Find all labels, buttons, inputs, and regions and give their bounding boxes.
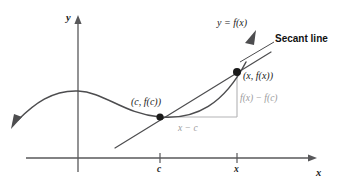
x-tick-label-x: x (233, 164, 239, 174)
callout-leader-group (240, 42, 274, 62)
y-axis-label: y (64, 12, 71, 23)
point-c-dot (156, 113, 163, 120)
function-curve-group (11, 30, 256, 129)
curve-equation-label: y = f(x) (216, 17, 248, 29)
difference-legs-group (160, 72, 237, 117)
curve-arrowhead-right (245, 30, 256, 45)
vertical-leg-label: f(x) − f(c) (240, 93, 278, 104)
horizontal-leg-label: x − c (177, 123, 198, 133)
x-axis-label: x (315, 167, 321, 178)
secant-line-figure: y x c x y = f(x) Secant line (c, f(c)) (… (0, 0, 339, 188)
secant-line-label: Secant line (275, 33, 328, 44)
point-c-label: (c, f(c)) (131, 96, 162, 108)
point-x-label: (x, f(x)) (243, 70, 274, 82)
function-curve (18, 62, 246, 120)
point-x-dot (233, 68, 241, 76)
y-axis-arrowhead (74, 15, 81, 24)
figure-svg: y x c x y = f(x) Secant line (c, f(c)) (… (0, 0, 339, 188)
x-tick-label-c: c (157, 164, 162, 174)
point-markers-group (156, 68, 241, 121)
labels-group: y x c x y = f(x) Secant line (c, f(c)) (… (64, 12, 328, 178)
curve-arrowhead-left (11, 114, 22, 129)
secant-callout-leader (240, 42, 274, 62)
x-axis-arrowhead (308, 154, 317, 161)
